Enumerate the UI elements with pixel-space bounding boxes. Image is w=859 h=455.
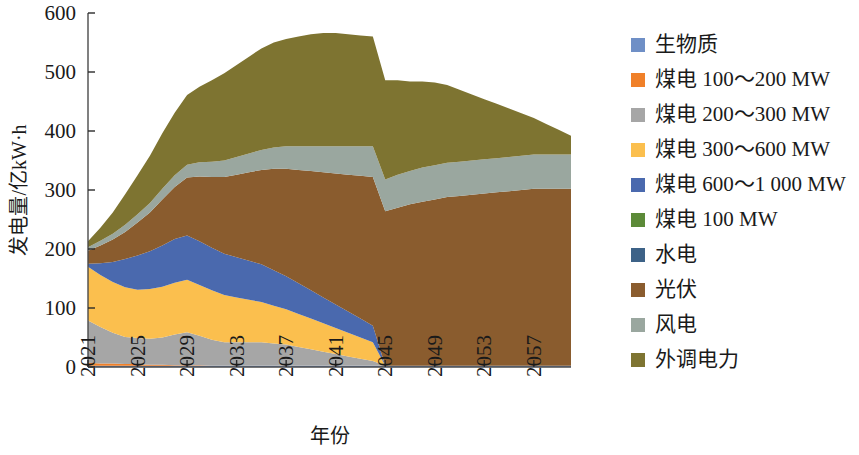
x-tick-label-0: 2021: [76, 335, 100, 377]
y-tick-label-6: 600: [45, 1, 77, 25]
legend-swatch-1: [631, 73, 645, 87]
x-tick-label-1: 2025: [126, 335, 150, 377]
legend-swatch-5: [631, 213, 645, 227]
legend-swatch-6: [631, 248, 645, 262]
y-axis-title: 发电量/亿kW·h: [8, 124, 30, 255]
y-tick-label-3: 300: [45, 178, 77, 202]
legend-swatch-4: [631, 178, 645, 192]
y-tick-label-0: 0: [66, 355, 77, 379]
generation-mix-stacked-area-chart: 0100200300400500600 20212025202920332037…: [0, 0, 859, 455]
y-tick-label-1: 100: [45, 296, 77, 320]
legend-swatch-8: [631, 318, 645, 332]
legend-swatch-9: [631, 353, 645, 367]
y-tick-label-4: 400: [45, 119, 77, 143]
legend-swatch-7: [631, 283, 645, 297]
x-tick-label-5: 2041: [324, 335, 348, 377]
legend-swatch-2: [631, 108, 645, 122]
legend-label-9: 外调电力: [655, 347, 739, 371]
legend-label-5: 煤电 100 MW: [655, 207, 778, 231]
legend-label-6: 水电: [655, 242, 697, 266]
legend-swatch-3: [631, 143, 645, 157]
legend-label-8: 风电: [655, 312, 697, 336]
legend-label-2: 煤电 200～300 MW: [655, 102, 830, 126]
y-tick-label-5: 500: [45, 60, 77, 84]
x-tick-label-8: 2053: [472, 335, 496, 377]
x-tick-label-6: 2045: [373, 335, 397, 377]
y-tick-label-2: 200: [45, 237, 77, 261]
legend-label-1: 煤电 100～200 MW: [655, 67, 830, 91]
legend-swatch-0: [631, 38, 645, 52]
x-tick-label-9: 2057: [522, 335, 546, 377]
x-tick-label-3: 2033: [225, 335, 249, 377]
legend-label-4: 煤电 600～1 000 MW: [655, 172, 846, 196]
x-axis-title: 年份: [310, 425, 350, 447]
x-tick-label-2: 2029: [175, 335, 199, 377]
x-tick-label-4: 2037: [274, 335, 298, 377]
legend-label-0: 生物质: [655, 32, 718, 56]
x-tick-label-7: 2049: [423, 335, 447, 377]
legend-label-7: 光伏: [655, 277, 697, 301]
legend-label-3: 煤电 300～600 MW: [655, 137, 830, 161]
